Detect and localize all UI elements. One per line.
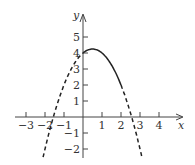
y-tick-label: 1: [73, 95, 80, 108]
y-tick-label: −1: [64, 127, 80, 140]
x-tick-label: 4: [156, 119, 163, 132]
x-tick-label: 3: [137, 119, 144, 132]
y-tick-label: 3: [73, 63, 80, 76]
plot-area: −3−2−11234−2−112345xy: [0, 0, 195, 165]
x-tick-label: −2: [37, 119, 53, 132]
x-tick-label: 1: [99, 119, 106, 132]
y-tick-label: 2: [73, 79, 80, 92]
x-tick-label: −3: [18, 119, 34, 132]
y-tick-label: −2: [64, 143, 80, 156]
solid-curve: [83, 49, 121, 85]
y-tick-label: 5: [73, 31, 80, 44]
x-tick-label: 2: [118, 119, 125, 132]
graph-figure: −3−2−11234−2−112345xy: [0, 0, 195, 165]
y-axis-label: y: [72, 9, 80, 22]
x-axis-label: x: [178, 119, 185, 132]
